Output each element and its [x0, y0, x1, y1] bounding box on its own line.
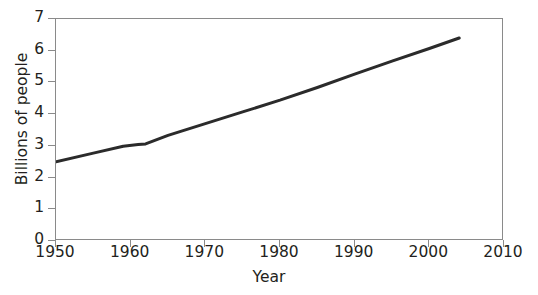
x-tick-label-2010: 2010: [468, 245, 538, 261]
y-tick-2: [48, 177, 55, 178]
x-tick-label-1990: 1990: [319, 245, 389, 261]
y-tick-4: [48, 113, 55, 114]
x-tick-label-1960: 1960: [95, 245, 165, 261]
y-tick-label-7: 7: [20, 10, 44, 26]
x-axis-title: Year: [0, 268, 538, 286]
plot-area: [55, 18, 503, 240]
population-line-chart: 7 6 5 4 3 2 1 0 1950 1960 1970 1980 1990…: [0, 0, 538, 295]
y-axis-title: Billions of people: [13, 29, 31, 209]
y-tick-3: [48, 145, 55, 146]
y-tick-1: [48, 208, 55, 209]
x-tick-label-1970: 1970: [169, 245, 239, 261]
y-tick-0: [48, 240, 55, 241]
x-tick-label-1980: 1980: [244, 245, 314, 261]
data-line-svg: [56, 19, 504, 241]
y-tick-7: [48, 18, 55, 19]
y-tick-5: [48, 81, 55, 82]
x-tick-label-2000: 2000: [393, 245, 463, 261]
series-world-population: [56, 38, 459, 162]
x-tick-label-1950: 1950: [20, 245, 90, 261]
y-tick-6: [48, 50, 55, 51]
